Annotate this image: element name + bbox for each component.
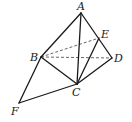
- dashed-edge-bd: [41, 57, 112, 58]
- label-e: E: [100, 28, 109, 41]
- edge-ac: [77, 13, 81, 84]
- dashed-edges: [41, 38, 112, 58]
- label-c: C: [72, 86, 81, 99]
- geometry-diagram: A B C D E F: [0, 0, 132, 122]
- label-a: A: [76, 0, 85, 13]
- edge-bc: [41, 57, 77, 84]
- label-d: D: [113, 52, 123, 65]
- edge-fc: [19, 84, 77, 103]
- edge-ce: [77, 38, 99, 84]
- edge-cd: [77, 58, 112, 84]
- label-f: F: [10, 105, 19, 118]
- label-b: B: [29, 51, 38, 64]
